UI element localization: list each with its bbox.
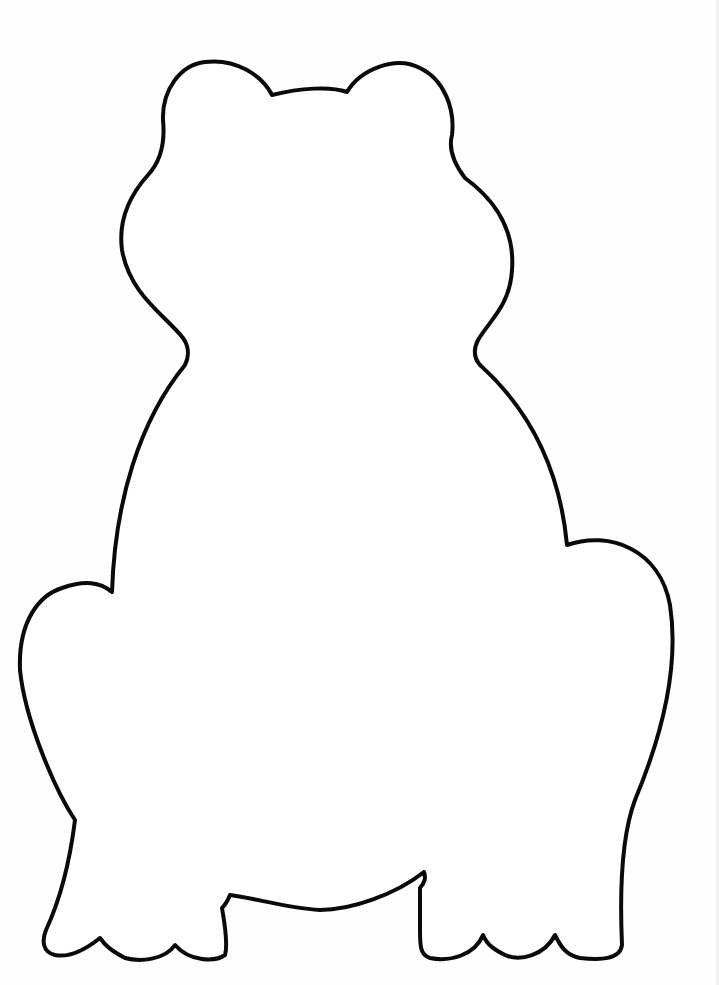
frog-outline <box>20 61 673 959</box>
frog-outline-drawing <box>0 0 719 985</box>
coloring-page: Frog outline coloring page <box>0 0 719 985</box>
